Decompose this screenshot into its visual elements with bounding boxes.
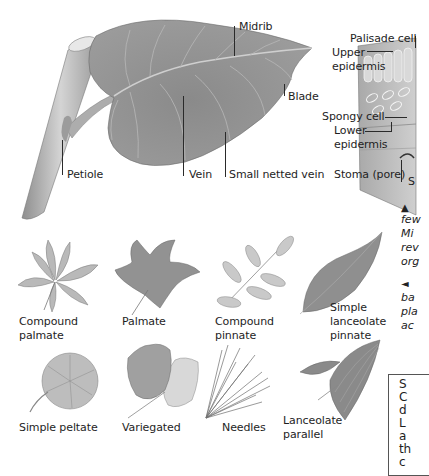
label-compound-pinnate-2: pinnate (215, 330, 256, 342)
label-upper-epidermis-2: epidermis (332, 61, 386, 73)
label-compound-pinnate-1: Compound (215, 316, 274, 328)
lower-epidermis-leader-v (391, 122, 392, 132)
caption2-line-2: pla (401, 305, 418, 319)
compound-pinnate-leaf-icon (216, 234, 296, 309)
palmate-leaf-icon (115, 240, 200, 315)
label-palisade-cell: Palisade cell (350, 33, 416, 45)
label-lower-epidermis-1: Lower (334, 125, 366, 137)
needles-leaf-icon (206, 345, 270, 418)
label-midrib: Midrib (239, 21, 273, 33)
label-lower-epidermis-2: epidermis (334, 139, 388, 151)
variegated-leaf-icon (127, 344, 198, 418)
vein-leader (183, 96, 184, 176)
caption1-line-4: org (401, 255, 419, 269)
label-simple-peltate: Simple peltate (19, 422, 98, 434)
sidebar-line-2: C (399, 391, 407, 403)
caption1-line-3: rev (401, 241, 419, 255)
upper-epidermis-leader (367, 51, 393, 52)
blade-leader (284, 84, 285, 96)
simple-peltate-leaf-icon (30, 353, 98, 412)
label-compound-palmate-1: Compound (19, 316, 78, 328)
small-netted-vein-leader (225, 132, 226, 177)
label-simple-lanceolate-pinnate-1: Simple (330, 302, 367, 314)
label-blade: Blade (288, 91, 319, 103)
sidebar-box (388, 374, 429, 476)
caption2-line-3: ac (401, 319, 414, 333)
midrib-leader (234, 26, 235, 56)
caption2-marker: ◄ (401, 277, 409, 291)
sidebar-line-3: d (399, 404, 407, 416)
label-simple-lanceolate-pinnate-2: lanceolate (330, 316, 386, 328)
label-needles: Needles (222, 422, 266, 434)
caption2-line-1: ba (401, 291, 415, 305)
petiole-leader (62, 140, 63, 175)
label-simple-lanceolate-pinnate-3: pinnate (330, 330, 371, 342)
label-stoma: Stoma (pore) (334, 169, 405, 181)
label-compound-palmate-2: palmate (19, 330, 64, 342)
label-lanceolate-parallel-1: Lanceolate (283, 415, 342, 427)
caption1-line-2: Mi (401, 227, 414, 241)
lower-epidermis-leader (365, 131, 391, 132)
label-vein: Vein (189, 169, 212, 181)
label-upper-epidermis-1: Upper (332, 47, 365, 59)
lanceolate-parallel-leaf-icon (300, 340, 380, 420)
compound-palmate-leaf-icon (18, 240, 98, 312)
label-palmate: Palmate (122, 316, 166, 328)
label-cutoff-s: S (408, 176, 415, 188)
caption1-line-1: few (401, 213, 421, 227)
sidebar-line-5: a (399, 430, 406, 442)
label-small-netted-vein: Small netted vein (229, 169, 324, 181)
label-lanceolate-parallel-2: parallel (283, 429, 323, 441)
sidebar-line-4: L (399, 417, 406, 429)
sidebar-line-7: c (399, 456, 406, 468)
label-variegated: Variegated (122, 422, 181, 434)
spongy-cell-leader (385, 117, 407, 118)
sidebar-line-6: th (399, 443, 411, 455)
sidebar-line-1: S (399, 378, 407, 390)
label-spongy-cell: Spongy cell (322, 111, 384, 123)
label-petiole: Petiole (67, 169, 103, 181)
